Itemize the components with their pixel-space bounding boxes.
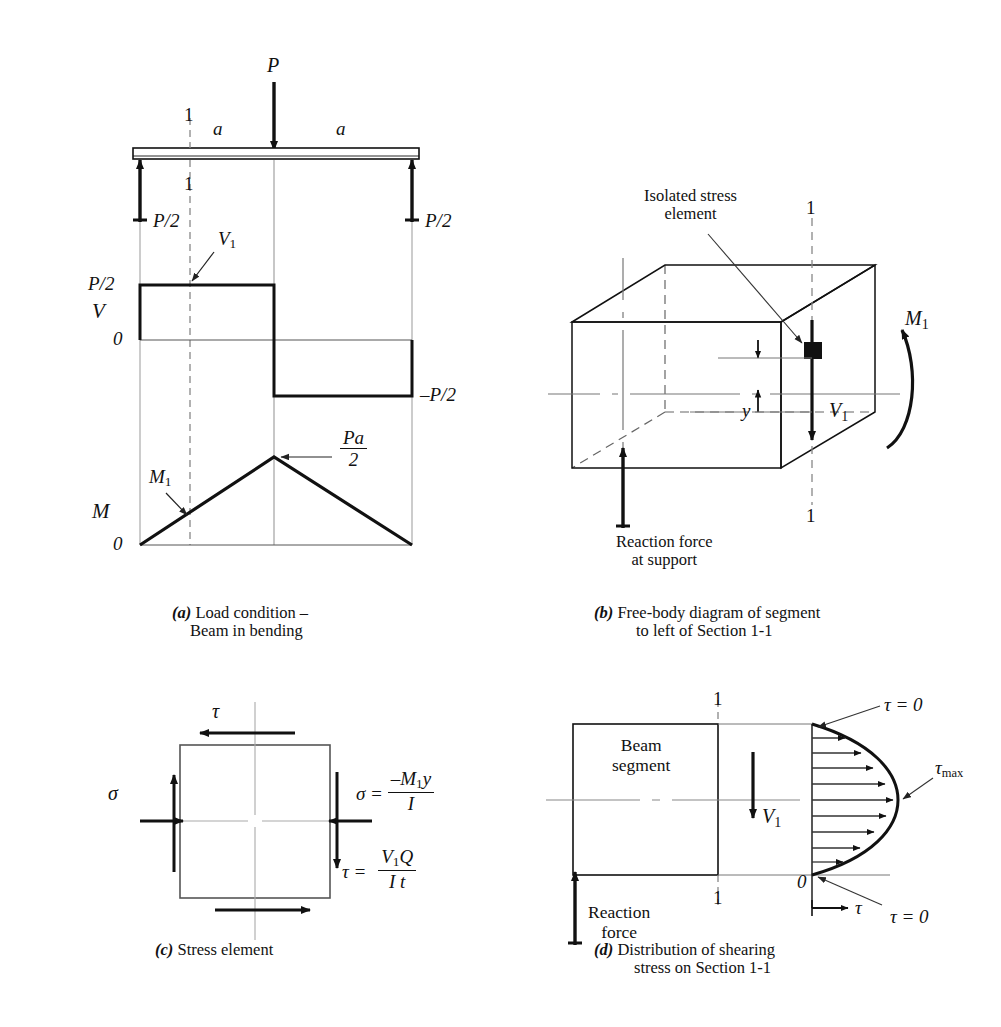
tau-axis-arrow bbox=[812, 900, 848, 916]
reaction-force-arrow bbox=[568, 872, 582, 945]
panel-d-caption-line2: stress on Section 1-1 bbox=[634, 958, 771, 977]
panel-b-free-body-diagram bbox=[548, 218, 913, 528]
shear-diagram bbox=[140, 252, 412, 396]
reaction-force-label: Reaction force at support bbox=[616, 533, 713, 570]
moment-zero-tick: 0 bbox=[113, 533, 123, 554]
box-hidden-edges bbox=[572, 265, 875, 468]
reaction-left-label: P/2 bbox=[153, 210, 179, 231]
panel-b-caption: (b) Free-body diagram of segment to left… bbox=[594, 604, 820, 641]
section-bottom-label: 1 bbox=[713, 887, 723, 908]
panel-b-caption-line2: to left of Section 1-1 bbox=[636, 621, 773, 640]
beam-bending-figure bbox=[0, 0, 1001, 1027]
reaction-force-arrow bbox=[616, 448, 630, 528]
tau-axis-label: τ bbox=[855, 897, 862, 918]
shear-top-tick: P/2 bbox=[88, 273, 114, 294]
shear-zero-tick: 0 bbox=[113, 328, 123, 349]
tau-equation-numerator: V1Q bbox=[378, 846, 416, 871]
isolated-element-leader bbox=[708, 234, 802, 343]
sigma-equation-numerator: –M1y bbox=[388, 768, 434, 793]
reaction-label-line1: Reaction force bbox=[616, 532, 713, 551]
shear-label-V1: V1 bbox=[829, 399, 848, 424]
tau-max-subscript: max bbox=[942, 766, 964, 780]
reaction-arrow-left bbox=[133, 160, 147, 545]
panel-d-caption-tag: (d) bbox=[594, 940, 613, 959]
panel-d-caption-line1: Distribution of shearing bbox=[617, 940, 775, 959]
tau-zero-top-leader bbox=[818, 706, 880, 727]
moment-arc-M1 bbox=[887, 330, 913, 448]
tau-equation-denominator: I t bbox=[378, 871, 416, 892]
beam-segment-line1: Beam bbox=[621, 735, 662, 755]
panel-a-caption-tag: (a) bbox=[172, 603, 191, 622]
panel-c-caption-line1: Stress element bbox=[177, 940, 273, 959]
reaction-label-line2: at support bbox=[632, 550, 698, 569]
reaction-force-label: Reaction force bbox=[588, 903, 650, 942]
tau-equation: τ = V1Q I t bbox=[342, 846, 416, 893]
reaction-label-line1: Reaction bbox=[588, 902, 650, 922]
shear-label-subscript: 1 bbox=[841, 409, 848, 424]
reaction-label-line2: force bbox=[601, 922, 637, 942]
shear-axis-label-V: V bbox=[92, 300, 105, 324]
moment-peak-numerator: Pa bbox=[340, 427, 367, 449]
panel-b-caption-line1: Free-body diagram of segment bbox=[617, 603, 820, 622]
sigma-equation-lhs: σ = bbox=[356, 783, 383, 804]
tau-max-label: τmax bbox=[935, 757, 963, 780]
moment-peak-fraction: Pa 2 bbox=[340, 427, 367, 471]
tau-max-leader bbox=[903, 778, 933, 799]
section-bottom-label: 1 bbox=[806, 505, 816, 526]
panel-a-caption-line1: Load condition – bbox=[195, 603, 308, 622]
section-top-label: 1 bbox=[713, 688, 723, 709]
y-dimension bbox=[690, 340, 812, 412]
moment-axis-label-M: M bbox=[92, 500, 110, 524]
section-top-label: 1 bbox=[806, 197, 816, 218]
sigma-left-label: σ bbox=[108, 782, 118, 804]
sigma-equation-fraction: –M1y I bbox=[388, 768, 434, 815]
panel-d-caption: (d) Distribution of shearing stress on S… bbox=[594, 941, 775, 978]
panel-c-stress-element bbox=[140, 702, 372, 940]
moment-peak-denominator: 2 bbox=[340, 449, 367, 470]
isolated-stress-element-marker bbox=[804, 342, 822, 359]
moment-callout-subscript: 1 bbox=[165, 474, 172, 489]
shear-label-subscript: 1 bbox=[774, 815, 781, 830]
panel-a-caption-line2: Beam in bending bbox=[190, 621, 303, 640]
sigma-numerator-subscript: 1 bbox=[416, 776, 423, 791]
tau-zero-bottom-label: τ = 0 bbox=[890, 906, 929, 927]
moment-callout-M1: M1 bbox=[149, 466, 171, 490]
distribution-zero-label: 0 bbox=[797, 871, 807, 892]
sigma-arrow-left bbox=[140, 775, 183, 872]
panel-c-caption: (c) Stress element bbox=[155, 941, 273, 959]
tau-zero-bottom-leader bbox=[818, 877, 882, 905]
shear-callout-subscript: 1 bbox=[230, 236, 237, 251]
reaction-right-label: P/2 bbox=[425, 210, 451, 231]
panel-a-caption: (a) Load condition – Beam in bending bbox=[172, 604, 308, 641]
shear-bottom-tick: –P/2 bbox=[420, 384, 456, 405]
isolated-stress-element-label: Isolated stress element bbox=[644, 187, 737, 224]
span-left-label-a: a bbox=[213, 118, 223, 139]
tau-zero-top-label: τ = 0 bbox=[884, 694, 923, 715]
moment-peak-label: Pa 2 bbox=[340, 427, 367, 471]
isolated-label-line1: Isolated stress bbox=[644, 186, 737, 205]
panel-a-load-condition bbox=[133, 82, 419, 545]
sigma-equation: σ = –M1y I bbox=[356, 768, 434, 815]
section-bottom-label: 1 bbox=[184, 173, 194, 194]
tau-equation-lhs: τ = bbox=[342, 861, 366, 882]
panel-c-caption-tag: (c) bbox=[155, 940, 173, 959]
section-top-label: 1 bbox=[184, 104, 194, 125]
shear-stress-arrows bbox=[812, 738, 893, 862]
shear-label-V1: V1 bbox=[762, 805, 781, 830]
shear-callout-V1: V1 bbox=[218, 228, 236, 252]
moment-label-subscript: 1 bbox=[922, 317, 929, 332]
tau-top-label: τ bbox=[212, 700, 219, 722]
beam-segment-label: Beam segment bbox=[612, 736, 670, 775]
sigma-equation-denominator: I bbox=[388, 793, 434, 814]
panel-b-caption-tag: (b) bbox=[594, 603, 613, 622]
span-right-label-a: a bbox=[336, 118, 346, 139]
isolated-label-line2: element bbox=[664, 204, 716, 223]
tau-equation-fraction: V1Q I t bbox=[378, 846, 416, 893]
moment-diagram bbox=[140, 457, 412, 545]
box-visible-edges bbox=[572, 265, 875, 468]
moment-label-M1: M1 bbox=[905, 307, 929, 332]
load-label-P: P bbox=[267, 54, 279, 76]
distance-label-y: y bbox=[742, 400, 750, 421]
beam-segment-line2: segment bbox=[612, 755, 670, 775]
beam-bar bbox=[133, 148, 419, 159]
